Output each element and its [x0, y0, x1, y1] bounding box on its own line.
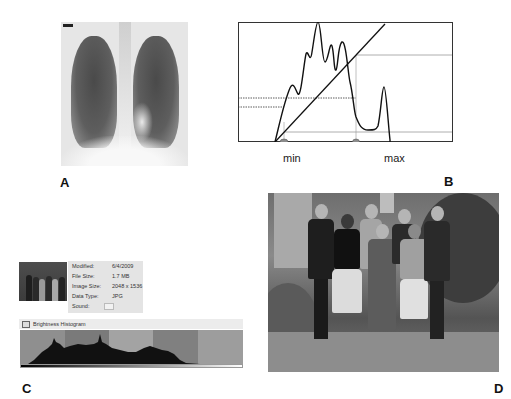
xray-right-lung: [71, 36, 117, 148]
min-marker: [280, 139, 288, 142]
panel-label-d: D: [494, 381, 503, 396]
histogram-silhouette: [20, 330, 243, 364]
info-modified-label: Modified:: [72, 263, 94, 269]
group-photo: [268, 193, 499, 372]
max-label: max: [384, 152, 405, 164]
info-imagesize-value: 2048 x 1536: [112, 283, 142, 289]
info-datatype-value: JPG: [112, 293, 123, 299]
brightness-histogram: [20, 330, 243, 368]
histogram-window-diagram: [238, 22, 453, 142]
xray-diaphragm: [61, 136, 188, 166]
chart-frame: [239, 23, 453, 142]
sound-button[interactable]: [104, 303, 114, 310]
panel-label-c: C: [22, 381, 31, 396]
brightness-gradient-bar: [20, 364, 243, 368]
max-marker: [353, 139, 360, 142]
info-datatype-label: Data Type:: [72, 293, 99, 299]
info-imagesize-label: Image Size:: [72, 283, 101, 289]
chest-xray-image: [61, 22, 188, 166]
min-label: min: [283, 152, 301, 164]
image-info-panel: Modified: 6/4/2009 File Size: 1.7 MB Ima…: [68, 261, 143, 313]
histogram-title: Brightness Histogram: [33, 321, 86, 327]
info-filesize-label: File Size:: [72, 273, 95, 279]
histogram-toggle-icon[interactable]: [22, 321, 30, 328]
panel-label-a: A: [60, 175, 69, 190]
brightness-histogram-header: Brightness Histogram: [19, 319, 243, 329]
info-sound-label: Sound:: [72, 303, 89, 309]
panel-label-b: B: [444, 174, 453, 189]
photo-wall: [274, 193, 312, 268]
info-filesize-value: 1.7 MB: [112, 273, 129, 279]
xray-marker: [63, 24, 73, 27]
info-modified-value: 6/4/2009: [112, 263, 133, 269]
image-thumbnail[interactable]: [19, 262, 67, 301]
